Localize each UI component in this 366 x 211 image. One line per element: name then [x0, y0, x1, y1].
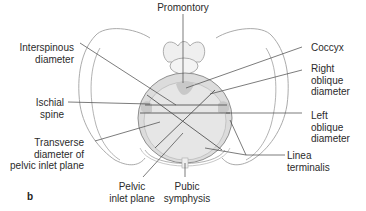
promontory-body: [170, 58, 198, 74]
label-interspinous-diameter: Interspinous diameter: [10, 42, 74, 65]
label-ischial-spine: Ischial spine: [10, 97, 64, 120]
label-pelvic-inlet-plane: Pelvic inlet plane: [102, 181, 162, 204]
label-promontory: Promontory: [150, 2, 216, 14]
label-transverse-diameter: Transverse diameter of pelvic inlet plan…: [4, 137, 84, 172]
label-left-oblique-diameter: Left oblique diameter: [311, 110, 350, 145]
label-right-oblique-diameter: Right oblique diameter: [311, 63, 350, 98]
label-pubic-symphysis: Pubic symphysis: [160, 181, 214, 204]
panel-label: b: [27, 191, 33, 202]
label-coccyx: Coccyx: [311, 42, 344, 54]
label-linea-terminalis: Linea terminalis: [287, 150, 330, 173]
